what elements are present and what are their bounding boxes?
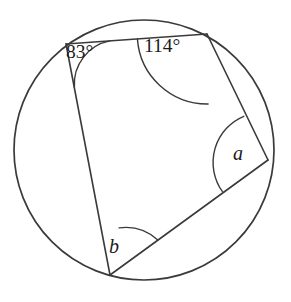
geometry-figure: 83° 114° a b — [0, 0, 291, 302]
chord-bottom-side — [110, 160, 268, 275]
angle-label-83: 83° — [66, 42, 93, 62]
angle-label-b: b — [109, 236, 119, 256]
angle-label-a: a — [233, 143, 243, 163]
angle-label-114: 114° — [144, 36, 180, 56]
angle-arc-b — [119, 227, 158, 240]
chord-left-side — [66, 44, 110, 275]
